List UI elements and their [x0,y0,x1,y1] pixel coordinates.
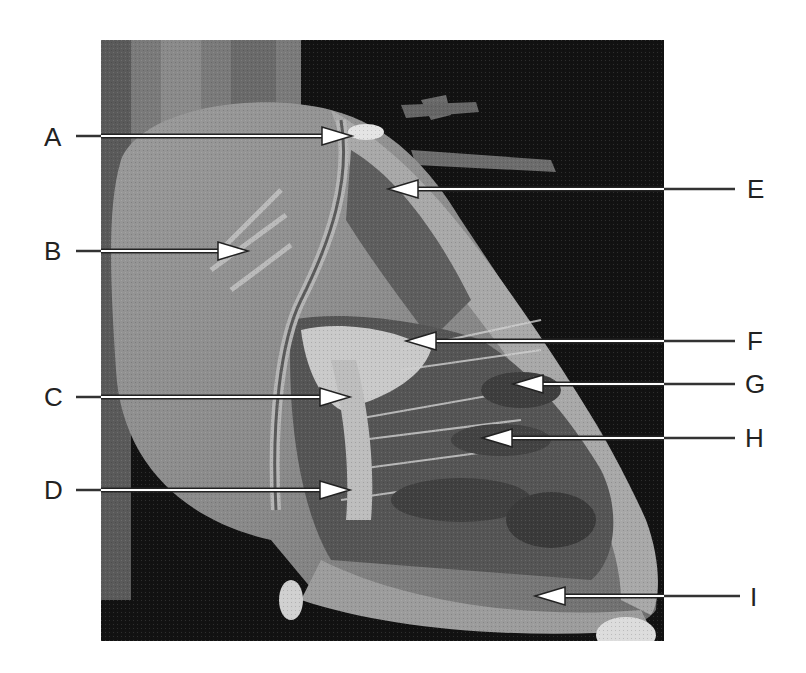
heart-illustration [101,40,664,641]
label-A: A [44,124,61,150]
label-H: H [745,425,764,451]
label-E: E [747,176,764,202]
label-F: F [747,328,763,354]
label-D: D [44,477,63,503]
label-B: B [44,238,61,264]
label-C: C [44,384,63,410]
label-G: G [745,371,765,397]
label-I: I [750,584,757,610]
heart-cutaway-image [101,40,664,641]
